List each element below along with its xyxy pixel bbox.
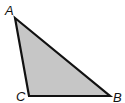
- triangle-diagram: A C B: [0, 0, 125, 103]
- triangle-abc: [15, 18, 110, 96]
- vertex-label-c: C: [16, 89, 26, 103]
- vertex-label-b: B: [113, 90, 122, 103]
- vertex-label-a: A: [4, 3, 14, 18]
